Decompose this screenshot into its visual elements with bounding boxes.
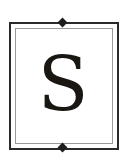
monogram-card: S — [0, 0, 126, 165]
monogram-letter: S — [0, 44, 126, 124]
